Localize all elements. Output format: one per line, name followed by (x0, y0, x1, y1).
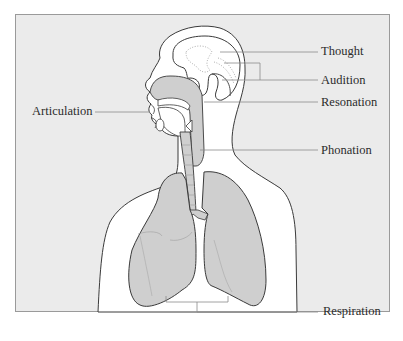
label-audition: Audition (321, 74, 365, 87)
label-phonation: Phonation (321, 144, 372, 157)
label-respiration: Respiration (323, 305, 381, 318)
label-articulation: Articulation (32, 105, 92, 118)
lower-lip (156, 119, 164, 131)
label-resonation: Resonation (321, 96, 377, 109)
left-lung (129, 173, 196, 306)
label-thought: Thought (321, 45, 363, 58)
